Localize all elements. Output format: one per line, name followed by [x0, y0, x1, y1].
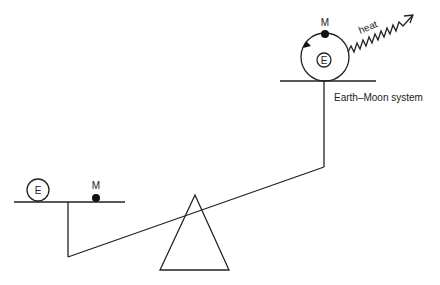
left-earth-label: E — [35, 185, 42, 196]
seesaw-diagram: E M E M heat Earth–Moon system — [0, 0, 440, 285]
heat-wave — [348, 16, 412, 52]
seesaw-beam — [68, 167, 324, 257]
right-moon-dot — [321, 30, 329, 38]
left-moon-label: M — [92, 180, 100, 191]
right-moon-label: M — [321, 17, 329, 28]
earth-moon-system-label: Earth–Moon system — [334, 92, 423, 103]
heat-label: heat — [357, 18, 379, 36]
fulcrum-triangle — [160, 195, 229, 270]
right-earth-label: E — [321, 55, 328, 66]
left-moon-dot — [92, 194, 100, 202]
